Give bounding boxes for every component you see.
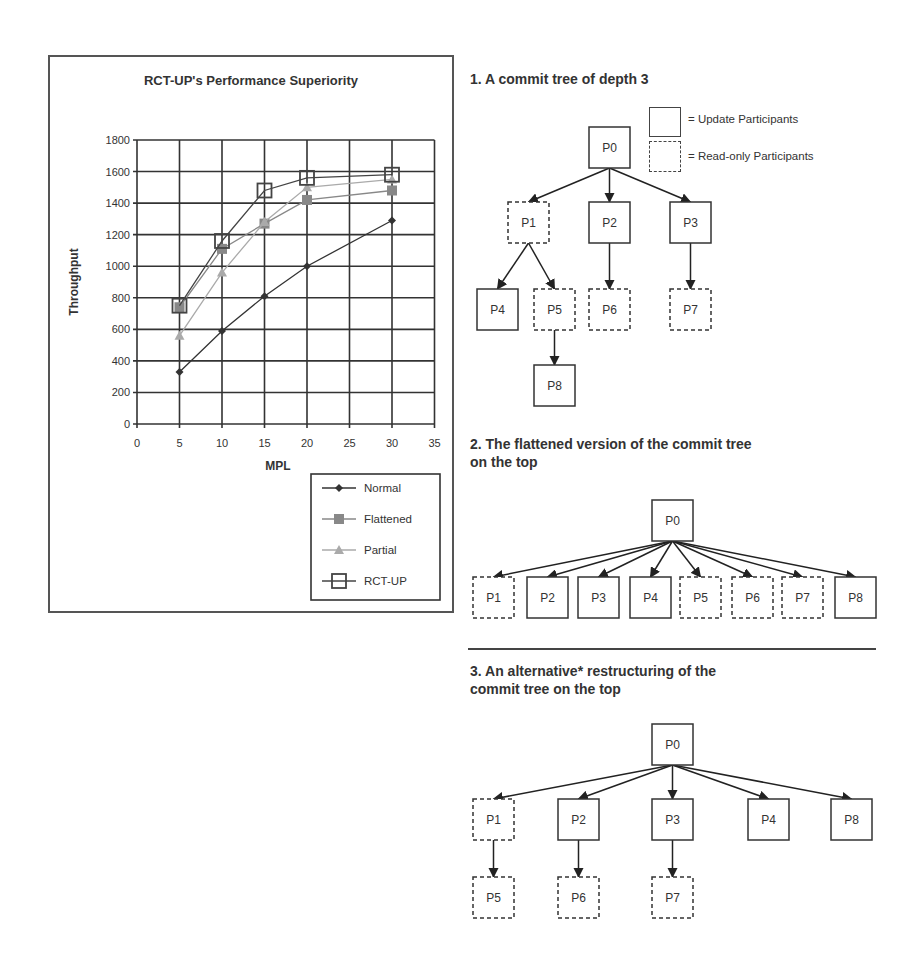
node-p5: P5 — [473, 877, 514, 918]
node-label: P6 — [602, 303, 617, 317]
commit-tree-diagrams: P0P1P2P3P4P5P6P7P8 P0P1P2P3P4P5P6P7P8 P0… — [0, 0, 923, 966]
edge-P0-P8 — [673, 541, 856, 577]
node-label: P2 — [602, 216, 617, 230]
node-label: P5 — [486, 891, 501, 905]
node-label: P6 — [571, 891, 586, 905]
tree3-diagram: P0P1P2P3P4P8P5P6P7 — [473, 724, 872, 918]
edge-P0-P1 — [494, 541, 673, 577]
node-p2: P2 — [589, 202, 630, 243]
node-p3: P3 — [652, 799, 693, 840]
node-p0: P0 — [652, 724, 693, 765]
node-p7: P7 — [652, 877, 693, 918]
node-p1: P1 — [473, 799, 514, 840]
node-label: P7 — [665, 891, 680, 905]
node-label: P4 — [643, 591, 658, 605]
node-p6: P6 — [589, 289, 630, 330]
node-label: P3 — [665, 813, 680, 827]
node-label: P1 — [486, 813, 501, 827]
node-label: P3 — [683, 216, 698, 230]
node-p4: P4 — [477, 289, 518, 330]
node-label: P7 — [683, 303, 698, 317]
node-p5: P5 — [680, 577, 721, 618]
edge-P0-P2 — [579, 765, 673, 799]
edge-P0-P1 — [529, 168, 610, 202]
node-label: P2 — [540, 591, 555, 605]
node-label: P8 — [547, 379, 562, 393]
edge-P0-P7 — [673, 541, 803, 577]
node-p8: P8 — [835, 577, 876, 618]
node-label: P3 — [591, 591, 606, 605]
edge-P0-P1 — [494, 765, 673, 799]
node-p3: P3 — [670, 202, 711, 243]
node-label: P5 — [547, 303, 562, 317]
node-p5: P5 — [534, 289, 575, 330]
node-label: P4 — [761, 813, 776, 827]
node-p1: P1 — [508, 202, 549, 243]
node-label: P0 — [665, 514, 680, 528]
edge-P1-P5 — [529, 243, 555, 289]
node-label: P2 — [571, 813, 586, 827]
node-p3: P3 — [578, 577, 619, 618]
edge-P0-P3 — [610, 168, 691, 202]
node-label: P0 — [665, 738, 680, 752]
node-p7: P7 — [782, 577, 823, 618]
node-label: P5 — [693, 591, 708, 605]
node-label: P8 — [844, 813, 859, 827]
node-label: P7 — [795, 591, 810, 605]
node-p1: P1 — [473, 577, 514, 618]
tree1-diagram: P0P1P2P3P4P5P6P7P8 — [477, 127, 711, 406]
edge-P0-P8 — [673, 765, 852, 799]
edge-P0-P4 — [673, 765, 769, 799]
node-p2: P2 — [527, 577, 568, 618]
node-p0: P0 — [652, 500, 693, 541]
node-label: P0 — [602, 141, 617, 155]
node-label: P1 — [521, 216, 536, 230]
node-p8: P8 — [831, 799, 872, 840]
node-p6: P6 — [732, 577, 773, 618]
node-p6: P6 — [558, 877, 599, 918]
node-p7: P7 — [670, 289, 711, 330]
node-label: P6 — [745, 591, 760, 605]
tree2-diagram: P0P1P2P3P4P5P6P7P8 — [473, 500, 876, 618]
node-p4: P4 — [748, 799, 789, 840]
node-label: P4 — [490, 303, 505, 317]
edge-P1-P4 — [498, 243, 529, 289]
node-p0: P0 — [589, 127, 630, 168]
node-p8: P8 — [534, 365, 575, 406]
node-p4: P4 — [630, 577, 671, 618]
node-p2: P2 — [558, 799, 599, 840]
node-label: P8 — [848, 591, 863, 605]
node-label: P1 — [486, 591, 501, 605]
edge-P0-P6 — [673, 541, 753, 577]
